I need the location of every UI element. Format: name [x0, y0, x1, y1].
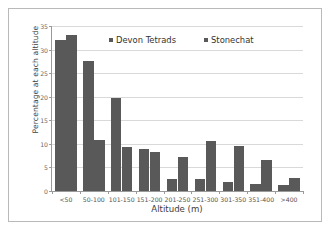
bar[interactable]: [206, 141, 217, 191]
bar[interactable]: [278, 185, 289, 191]
x-tick-mark: [136, 191, 137, 194]
bar[interactable]: [111, 98, 122, 191]
y-axis-title: Percentage at each altitude: [31, 10, 40, 150]
bar-group: [108, 26, 136, 191]
x-tick-mark: [164, 191, 165, 194]
x-axis-title: Altitude (m): [51, 204, 303, 214]
y-tick-label: 15: [40, 117, 48, 124]
bar-group: [191, 26, 219, 191]
legend-swatch-stonechat-icon: [204, 38, 208, 42]
x-tick-mark: [108, 191, 109, 194]
bar[interactable]: [234, 146, 245, 191]
y-tick-label: 25: [40, 70, 48, 77]
bar[interactable]: [289, 178, 300, 191]
bar[interactable]: [66, 35, 77, 191]
bar-group: [219, 26, 247, 191]
y-tick-label: 10: [40, 140, 48, 147]
x-tick-mark: [303, 191, 304, 194]
bar[interactable]: [261, 160, 272, 191]
page-frame: Percentage at each altitude 051015202530…: [8, 8, 322, 222]
bar-group: [275, 26, 303, 191]
x-tick-label: <50: [59, 196, 72, 203]
x-tick-label: >400: [281, 196, 298, 203]
y-tick-label: 35: [40, 23, 48, 30]
bar[interactable]: [178, 157, 189, 191]
bar[interactable]: [139, 149, 150, 191]
bar-group: [247, 26, 275, 191]
y-tick-label: 30: [40, 46, 48, 53]
bar-group: [164, 26, 192, 191]
x-tick-label: 201-250: [165, 196, 191, 203]
x-tick-mark: [52, 191, 53, 194]
y-tick-label: 20: [40, 93, 48, 100]
x-tick-label: 50-100: [83, 196, 105, 203]
bar[interactable]: [150, 152, 161, 191]
bar[interactable]: [122, 147, 133, 191]
legend-entry-devon-tetrads[interactable]: Devon Tetrads: [109, 35, 176, 45]
bar[interactable]: [223, 182, 234, 191]
bar-group: [136, 26, 164, 191]
x-tick-mark: [219, 191, 220, 194]
x-tick-label: 351-400: [248, 196, 274, 203]
bar[interactable]: [250, 184, 261, 191]
bar[interactable]: [167, 179, 178, 191]
legend-entry-stonechat[interactable]: Stonechat: [204, 35, 254, 45]
bar-chart: Percentage at each altitude 051015202530…: [13, 13, 319, 219]
y-tick-label: 5: [44, 164, 48, 171]
bar[interactable]: [195, 179, 206, 191]
bars-layer: [52, 26, 303, 191]
x-tick-mark: [191, 191, 192, 194]
x-tick-mark: [247, 191, 248, 194]
y-tick-label: 0: [44, 188, 48, 195]
bar[interactable]: [55, 40, 66, 191]
bar-group: [80, 26, 108, 191]
bar[interactable]: [83, 61, 94, 191]
x-tick-label: 151-200: [137, 196, 163, 203]
x-tick-label: 251-300: [192, 196, 218, 203]
x-tick-mark: [80, 191, 81, 194]
bar[interactable]: [94, 140, 105, 191]
bar-group: [52, 26, 80, 191]
x-tick-label: 301-350: [220, 196, 246, 203]
legend-label-stonechat: Stonechat: [211, 35, 254, 45]
legend-swatch-devon-tetrads-icon: [109, 38, 113, 42]
x-tick-mark: [275, 191, 276, 194]
plot-area: 05101520253035 <5050-100101-150151-20020…: [51, 26, 303, 192]
x-tick-label: 101-150: [109, 196, 135, 203]
legend-label-devon-tetrads: Devon Tetrads: [116, 35, 176, 45]
chart-legend: Devon Tetrads Stonechat: [109, 35, 254, 45]
